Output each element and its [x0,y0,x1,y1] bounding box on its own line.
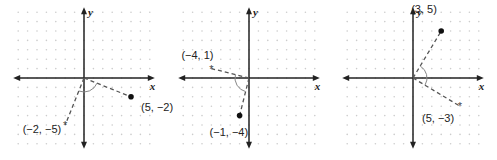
rotation-arc [79,83,97,92]
rotated-point-label: (5, −3) [422,112,454,124]
arrow-up-icon [246,7,252,14]
panel-1: xy*(5, −2)(−2, −5) [13,6,173,149]
x-axis-label: x [314,80,321,92]
segment-original [413,31,441,78]
segment-original [240,78,249,116]
arrow-left-icon [13,75,20,81]
arrow-down-icon [410,142,416,149]
rotation-diagrams: xy*(5, −2)(−2, −5) xy*(−1, −4)(−4, 1) xy… [0,0,497,160]
original-point-label: (−1, −4) [210,126,249,138]
panel-3: xy*(3, 5)(5, −3) [342,3,485,149]
y-axis-label: y [86,6,93,18]
x-axis-label: x [149,80,156,92]
y-axis-label: y [251,6,258,18]
panel-2: xy*(−1, −4)(−4, 1) [178,6,321,149]
original-point-label: (5, −2) [141,101,173,113]
original-point-dot [237,113,243,119]
rotated-point-star-icon: * [209,63,214,75]
x-axis-label: x [478,80,485,92]
original-point-dot [438,28,444,34]
rotated-point-star-icon: * [458,100,463,112]
rotated-point-label: (−4, 1) [181,49,213,61]
arrow-down-icon [81,142,87,149]
original-point-label: (3, 5) [411,3,437,15]
rotated-point-label: (−2, −5) [23,123,62,135]
segment-original [84,78,131,97]
arrow-up-icon [81,7,87,14]
original-point-dot [128,94,134,100]
rotation-arc [235,75,246,92]
arrow-left-icon [342,75,349,81]
segment-rotated [65,78,84,125]
arrow-left-icon [178,75,185,81]
segment-rotated [413,78,460,106]
segment-rotated [211,69,249,78]
rotated-point-star-icon: * [63,119,68,131]
arrow-down-icon [246,142,252,149]
